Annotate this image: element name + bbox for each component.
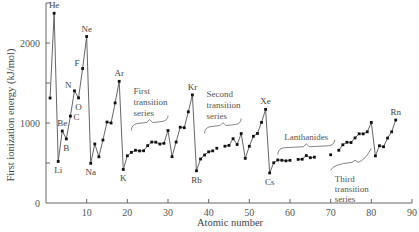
data-point	[382, 145, 385, 148]
data-point	[158, 143, 161, 146]
data-point	[358, 132, 361, 135]
data-point	[329, 153, 332, 156]
data-point	[179, 126, 182, 129]
element-label: Xe	[260, 96, 271, 106]
annotation-text: series	[133, 108, 154, 118]
data-point	[85, 35, 88, 38]
data-point	[175, 141, 178, 144]
element-label: He	[49, 0, 60, 10]
data-point	[394, 119, 397, 122]
data-point	[183, 126, 186, 129]
data-point	[110, 122, 113, 125]
x-tick-label: 60	[285, 207, 295, 218]
annotation-text: series	[207, 111, 228, 121]
annotation-text: Second	[207, 89, 234, 99]
data-point	[289, 159, 292, 162]
y-tick-label: 2000	[20, 38, 40, 49]
data-point	[374, 154, 377, 157]
data-point	[215, 147, 218, 150]
data-point	[146, 144, 149, 147]
data-point	[370, 121, 373, 124]
data-point	[366, 130, 369, 133]
annotation-text: series	[335, 194, 356, 204]
annotation-brace	[278, 140, 335, 155]
data-point	[244, 157, 247, 160]
annotation-text: Lanthanides	[284, 132, 328, 142]
element-label: K	[120, 173, 127, 183]
data-point	[386, 137, 389, 140]
data-point	[81, 67, 84, 70]
data-point	[285, 159, 288, 162]
data-point	[224, 145, 227, 148]
data-point	[114, 102, 117, 105]
annotations: FirsttransitionseriesSecondtransitionser…	[131, 86, 371, 205]
x-tick-label: 20	[122, 207, 132, 218]
element-label: Li	[54, 165, 62, 175]
annotation-text: First	[133, 86, 150, 96]
element-label: Cs	[265, 177, 275, 187]
data-point	[305, 154, 308, 157]
data-point	[65, 138, 68, 141]
data-point	[195, 169, 198, 172]
x-tick-label: 80	[366, 207, 376, 218]
data-point	[301, 158, 304, 161]
data-point	[350, 141, 353, 144]
element-label: Rn	[390, 107, 401, 117]
data-point	[106, 121, 109, 124]
data-point	[390, 130, 393, 133]
data-point	[346, 141, 349, 144]
annotation-brace	[331, 148, 372, 170]
element-label: Ne	[81, 24, 92, 34]
data-point	[280, 159, 283, 162]
x-tick-label: 70	[326, 207, 336, 218]
series-segment	[225, 109, 290, 173]
element-label: Na	[85, 167, 96, 177]
data-point	[187, 110, 190, 113]
element-label: F	[75, 58, 80, 68]
data-point	[248, 145, 251, 148]
data-point	[93, 143, 96, 146]
x-tick-label: 10	[82, 207, 92, 218]
data-point	[276, 159, 279, 162]
data-point	[236, 143, 239, 146]
y-tick-label: 0	[35, 198, 40, 209]
y-axis-label: First ionization energy (kJ/mol)	[5, 48, 17, 182]
data-point	[256, 132, 259, 135]
element-label: C	[73, 112, 79, 122]
data-point	[69, 115, 72, 118]
data-point	[57, 160, 60, 163]
data-point	[142, 149, 145, 152]
data-point	[126, 154, 129, 157]
x-axis-label: Atomic number	[197, 217, 264, 228]
data-point	[362, 132, 365, 135]
data-point	[268, 172, 271, 175]
x-tick-label: 90	[407, 207, 417, 218]
data-point	[163, 142, 166, 145]
annotation-text: transition	[133, 97, 167, 107]
data-point	[264, 108, 267, 111]
data-point	[378, 144, 381, 147]
annotation-text: transition	[335, 184, 369, 194]
data-point	[228, 144, 231, 147]
data-point	[297, 158, 300, 161]
data-point	[118, 80, 121, 83]
data-point	[341, 143, 344, 146]
element-label: Ar	[114, 68, 124, 78]
data-point	[102, 139, 105, 142]
data-point	[61, 130, 64, 133]
data-point	[122, 168, 125, 171]
data-point	[203, 154, 206, 157]
element-label: B	[63, 143, 69, 153]
data-point	[211, 149, 214, 152]
data-point	[309, 156, 312, 159]
data-point	[77, 96, 80, 99]
data-point	[191, 94, 194, 97]
data-point	[97, 155, 100, 158]
data-point	[49, 97, 52, 100]
element-label: Rb	[191, 175, 202, 185]
data-point	[154, 141, 157, 144]
data-point	[199, 158, 202, 161]
data-point	[313, 156, 316, 159]
annotation-brace	[205, 119, 242, 134]
data-point	[337, 149, 340, 152]
